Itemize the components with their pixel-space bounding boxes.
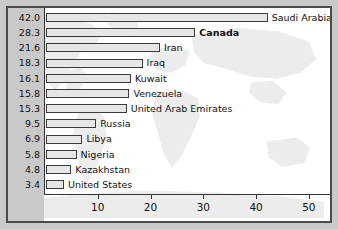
bar-category-label: Venezuela [133,89,182,99]
x-axis-ticks: 1020304050 [8,194,330,223]
bar-row: 18.3Iraq [8,56,330,71]
bar-track: Iran [46,40,330,55]
bar [46,135,82,144]
bar [46,119,96,128]
bar-row: 5.8Nigeria [8,147,330,162]
bar-value-label: 6.9 [8,134,40,144]
bar [46,104,127,113]
bar [46,28,195,37]
x-axis-tick [98,194,99,199]
bar-track: Russia [46,116,330,131]
bar [46,89,129,98]
x-axis-tick-label: 20 [144,202,157,213]
bar-value-label: 3.4 [8,180,40,190]
bar-category-label: United Arab Emirates [131,104,233,114]
bar-rows: 42.0Saudi Arabia28.3Canada21.6Iran18.3Ir… [8,10,330,192]
chart-frame: 42.0Saudi Arabia28.3Canada21.6Iran18.3Ir… [6,6,332,223]
bar-row: 3.4United States [8,177,330,192]
bar-value-label: 15.8 [8,89,40,99]
bar-category-label: Kazakhstan [75,165,130,175]
bar-row: 28.3Canada [8,25,330,40]
x-axis-tick [151,194,152,199]
bar [46,43,160,52]
bar-category-label: Iraq [147,58,166,68]
bar-value-label: 21.6 [8,43,40,53]
bar-category-label: Libya [86,134,111,144]
bar-row: 6.9Libya [8,132,330,147]
bar-category-label: Nigeria [81,150,115,160]
x-axis-tick-label: 50 [302,202,315,213]
bar-track: Canada [46,25,330,40]
bar-value-label: 16.1 [8,74,40,84]
bar-row: 42.0Saudi Arabia [8,10,330,25]
bar-track: Libya [46,132,330,147]
bar-row: 16.1Kuwait [8,71,330,86]
bar-track: United Arab Emirates [46,101,330,116]
bar-track: Nigeria [46,147,330,162]
bar [46,59,143,68]
bar-value-label: 15.3 [8,104,40,114]
bar-track: United States [46,177,330,192]
bar-category-label: Saudi Arabia [272,13,332,23]
bar [46,180,64,189]
bar-row: 15.8Venezuela [8,86,330,101]
x-axis-tick [256,194,257,199]
bar-value-label: 42.0 [8,13,40,23]
bar-track: Kuwait [46,71,330,86]
bar-value-label: 9.5 [8,119,40,129]
bar-track: Venezuela [46,86,330,101]
bar [46,150,77,159]
bar-category-label: Iran [164,43,183,53]
bar [46,74,131,83]
bar-category-label: Russia [100,119,131,129]
bar-chart: 42.0Saudi Arabia28.3Canada21.6Iran18.3Ir… [0,0,338,229]
bar-category-label: Canada [199,28,239,38]
bar-value-label: 28.3 [8,28,40,38]
bar-category-label: Kuwait [135,74,167,84]
bar-track: Kazakhstan [46,162,330,177]
bar-row: 15.3United Arab Emirates [8,101,330,116]
plot-area: 42.0Saudi Arabia28.3Canada21.6Iran18.3Ir… [8,8,330,221]
bar-value-label: 5.8 [8,150,40,160]
bar-row: 9.5Russia [8,116,330,131]
bar-row: 21.6Iran [8,40,330,55]
bar-track: Iraq [46,56,330,71]
x-axis-tick-label: 40 [249,202,262,213]
bar-value-label: 4.8 [8,165,40,175]
bar-track: Saudi Arabia [46,10,330,25]
bar-row: 4.8Kazakhstan [8,162,330,177]
x-axis-tick [203,194,204,199]
x-axis-tick-label: 10 [91,202,104,213]
x-axis-tick-label: 30 [197,202,210,213]
x-axis-tick [309,194,310,199]
bar-category-label: United States [68,180,132,190]
bar [46,13,268,22]
bar-value-label: 18.3 [8,58,40,68]
bar [46,165,71,174]
